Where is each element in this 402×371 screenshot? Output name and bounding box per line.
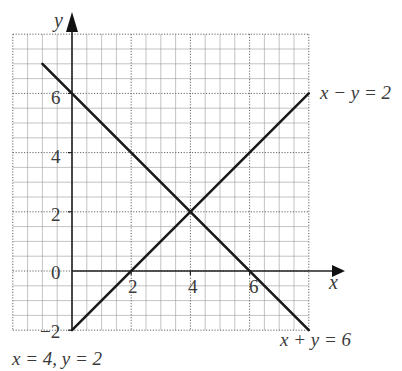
y-tick-2: 2 [51, 205, 61, 224]
y-tick-0: 0 [51, 263, 61, 282]
y-tick-minus-2: −2 [40, 322, 60, 341]
x-tick-2: 2 [128, 277, 138, 296]
solution-label: x = 4, y = 2 [12, 349, 102, 368]
x-axis-label: x [329, 272, 338, 292]
x-tick-6: 6 [249, 277, 259, 296]
graph-plot [0, 0, 402, 371]
y-tick-4: 4 [51, 147, 61, 166]
y-tick-6: 6 [51, 88, 61, 107]
x-tick-4: 4 [188, 277, 198, 296]
y-axis-label: y [54, 10, 63, 30]
equation-label-x-plus-y: x + y = 6 [280, 330, 351, 349]
y-axis-arrow-icon [66, 12, 78, 32]
equation-label-x-minus-y: x − y = 2 [320, 83, 391, 102]
